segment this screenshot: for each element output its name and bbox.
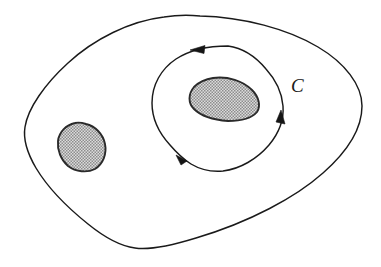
hole-right-shape [190, 78, 260, 121]
contour-c-label: C [291, 75, 304, 96]
figure-root: C [0, 0, 381, 267]
arrow-top-icon [190, 46, 205, 54]
hole-left-shape [58, 123, 106, 172]
contour-diagram: C [0, 0, 381, 267]
